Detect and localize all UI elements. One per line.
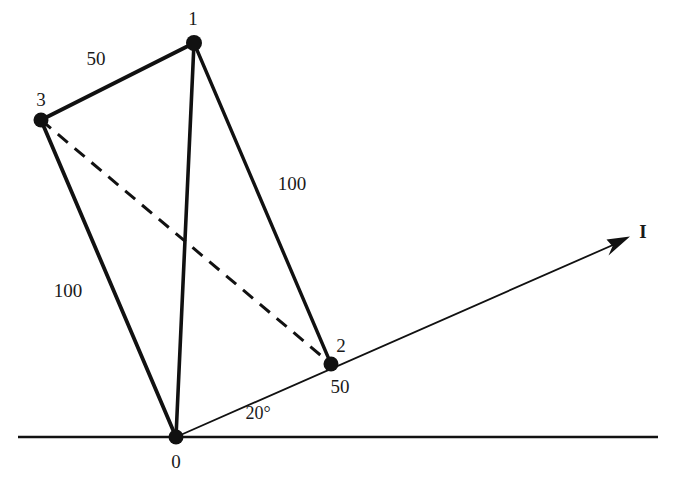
member-label-3-0: 100 bbox=[54, 281, 83, 300]
load-ray-line bbox=[176, 241, 622, 437]
member-label-3-1: 50 bbox=[87, 49, 106, 68]
member-1-2 bbox=[194, 43, 331, 364]
node-marker-2 bbox=[324, 357, 339, 372]
node-marker-3 bbox=[34, 113, 49, 128]
node-marker-1 bbox=[186, 35, 202, 51]
member-3-1 bbox=[41, 43, 194, 120]
node-label-0: 0 bbox=[171, 452, 181, 471]
diagram-canvas bbox=[0, 0, 682, 480]
member-1-0 bbox=[176, 43, 194, 437]
member-label-1-2: 100 bbox=[278, 174, 307, 193]
angle-label-20deg: 20° bbox=[245, 404, 270, 422]
node-label-2: 2 bbox=[336, 336, 346, 355]
node-label-1: 1 bbox=[188, 9, 198, 28]
load-label-I: I bbox=[639, 222, 646, 241]
member-label-0-2: 50 bbox=[331, 377, 350, 396]
node-label-3: 3 bbox=[36, 90, 46, 109]
node-marker-0 bbox=[169, 430, 184, 445]
truss-diagram: 1 3 2 0 50 100 100 50 20° I bbox=[0, 0, 682, 480]
member-3-0 bbox=[41, 120, 176, 437]
